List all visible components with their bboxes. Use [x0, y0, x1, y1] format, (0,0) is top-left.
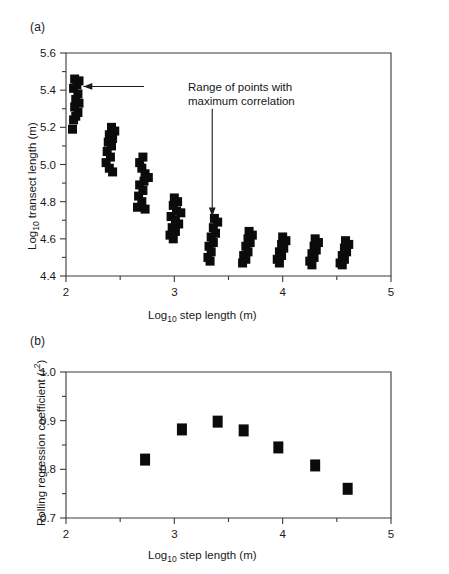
data-marker — [239, 424, 249, 436]
panel-b-x-tick-label: 3 — [171, 528, 177, 540]
panel-b-x-tick-label: 2 — [63, 528, 69, 540]
data-marker — [343, 483, 353, 495]
data-marker — [213, 416, 223, 428]
panel-b-plot: 0.70.80.91.02345 — [0, 0, 449, 574]
data-marker — [177, 423, 187, 435]
data-marker — [310, 459, 320, 471]
panel-b-y-tick-label: 0.9 — [40, 415, 56, 427]
panel-b-x-tick-label: 5 — [388, 528, 394, 540]
panel-b-y-tick-label: 0.8 — [40, 463, 56, 475]
data-marker — [140, 454, 150, 466]
figure-container: (a) (b) Log10 transect length (m) Log10 … — [0, 0, 449, 574]
panel-b-x-tick-label: 4 — [279, 528, 286, 540]
panel-b-axes-frame — [66, 372, 391, 518]
data-marker — [273, 441, 283, 453]
panel-b-y-tick-label: 0.7 — [40, 512, 56, 524]
panel-b-y-tick-label: 1.0 — [40, 366, 56, 378]
